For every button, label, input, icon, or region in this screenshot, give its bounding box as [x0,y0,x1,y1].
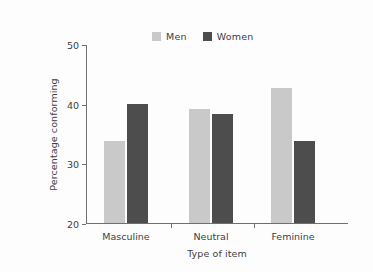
legend-label-men: Men [166,31,187,42]
y-tick-mark [82,224,86,225]
x-tick-label: Masculine [102,231,149,242]
bar [271,88,292,223]
x-tick-mark [254,224,255,228]
plot-area: 20304050 MasculineNeutralFeminine Percen… [86,45,348,224]
x-tick-mark [171,224,172,228]
bar [127,104,148,223]
y-tick-label: 30 [67,159,79,170]
y-axis-title: Percentage conforming [48,45,59,224]
bar [104,141,125,223]
legend-swatch-men [152,32,161,41]
y-tick-label: 40 [67,99,79,110]
y-tick-label: 20 [67,219,79,230]
bar [212,114,233,223]
bar-chart-figure: Men Women 20304050 MasculineNeutralFemin… [0,0,373,272]
legend-entry-men: Men [152,31,187,42]
x-tick-label: Neutral [193,231,228,242]
x-axis-title: Type of item [86,248,348,259]
y-tick-mark [82,105,86,106]
chart-legend: Men Women [152,31,253,42]
x-tick-label: Feminine [271,231,314,242]
legend-swatch-women [203,32,212,41]
y-tick-mark [82,45,86,46]
bar [294,141,315,223]
y-axis-spine [86,45,87,224]
legend-entry-women: Women [203,31,254,42]
y-tick-label: 50 [67,40,79,51]
x-axis-spine [86,223,348,224]
bar [189,109,210,223]
y-tick-mark [82,164,86,165]
legend-label-women: Women [217,31,254,42]
